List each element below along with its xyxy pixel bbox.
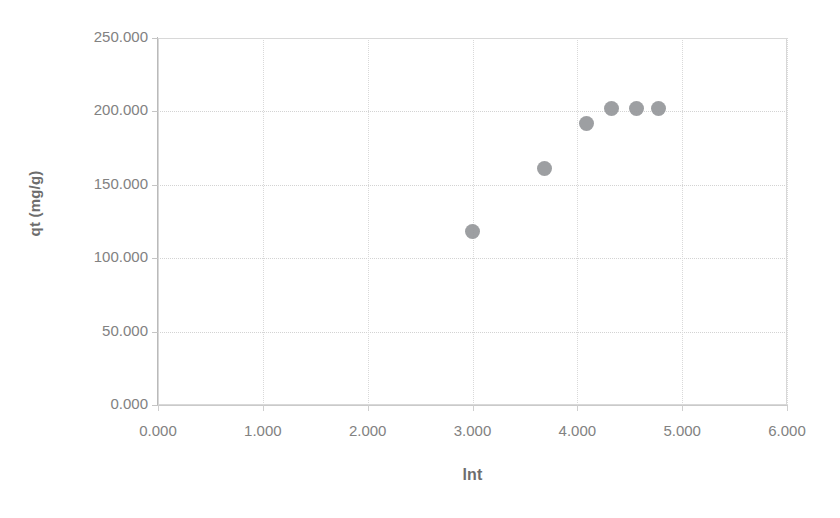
x-tick-label: 4.000 — [531, 422, 623, 439]
x-tick-mark — [263, 405, 264, 411]
x-tick-mark — [473, 405, 474, 411]
gridline-vertical — [577, 38, 578, 405]
y-tick-mark — [152, 111, 158, 112]
y-tick-mark — [152, 332, 158, 333]
plot-area — [158, 38, 787, 405]
y-tick-label: 100.000 — [56, 248, 148, 265]
gridline-vertical — [473, 38, 474, 405]
x-tick-mark — [787, 405, 788, 411]
x-tick-mark — [577, 405, 578, 411]
y-tick-label: 200.000 — [56, 101, 148, 118]
y-tick-mark — [152, 38, 158, 39]
y-tick-label: 250.000 — [56, 28, 148, 45]
y-axis-title: qt (mg/g) — [26, 134, 43, 274]
y-tick-label: 0.000 — [56, 395, 148, 412]
data-point — [651, 101, 666, 116]
data-point — [604, 101, 619, 116]
data-point — [537, 161, 552, 176]
x-tick-mark — [368, 405, 369, 411]
x-tick-label: 5.000 — [636, 422, 728, 439]
gridline-vertical — [158, 38, 159, 405]
y-axis-line — [157, 37, 158, 406]
scatter-chart: qt (mg/g) lnt 0.00050.000100.000150.0002… — [0, 0, 840, 518]
x-tick-label: 1.000 — [217, 422, 309, 439]
data-point — [579, 116, 594, 131]
gridline-vertical — [263, 38, 264, 405]
y-tick-label: 150.000 — [56, 175, 148, 192]
x-tick-label: 0.000 — [112, 422, 204, 439]
data-point — [465, 224, 480, 239]
y-tick-mark — [152, 258, 158, 259]
x-tick-label: 3.000 — [427, 422, 519, 439]
gridline-vertical — [682, 38, 683, 405]
x-tick-mark — [682, 405, 683, 411]
data-point — [629, 101, 644, 116]
y-tick-mark — [152, 185, 158, 186]
x-tick-label: 2.000 — [322, 422, 414, 439]
x-axis-title: lnt — [158, 466, 787, 484]
x-tick-mark — [158, 405, 159, 411]
gridline-vertical — [787, 38, 788, 405]
x-tick-label: 6.000 — [741, 422, 833, 439]
gridline-vertical — [368, 38, 369, 405]
y-tick-label: 50.000 — [56, 322, 148, 339]
